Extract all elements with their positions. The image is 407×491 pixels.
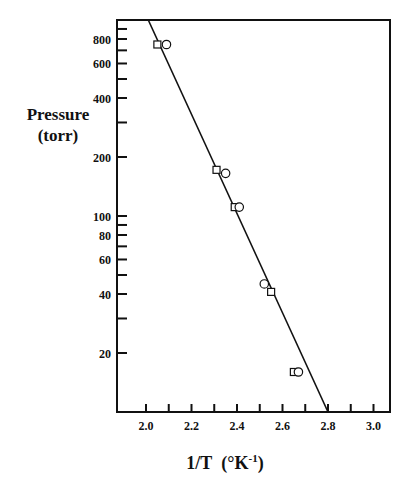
y-tick-label: 600 [93,57,111,71]
y-axis-label-line2: (torr) [8,125,108,146]
x-tick-label: 2.0 [139,419,154,433]
y-tick-label: 20 [99,347,111,361]
chart-canvas: 20406080100200400600800 2.02.22.42.62.83… [0,0,407,491]
x-tick-label: 2.6 [275,419,290,433]
x-tick-label: 2.4 [230,419,245,433]
y-tick-label: 80 [99,229,111,243]
y-axis-label: Pressure (torr) [8,104,108,146]
circle-marker [294,368,302,376]
circle-marker [221,169,229,177]
square-marker [213,166,220,173]
x-axis-label: 1/T (°K-1) [150,452,300,474]
fit-line [148,20,328,412]
y-tick-label: 100 [93,210,111,224]
y-tick-label: 200 [93,151,111,165]
data-series [148,20,328,412]
circle-marker [235,203,243,211]
circle-marker [162,40,170,48]
circle-marker [260,280,268,288]
x-tick-label: 2.8 [321,419,336,433]
x-axis-ticks: 2.02.22.42.62.83.0 [139,404,382,433]
square-marker [154,41,161,48]
x-axis-label-main: 1/T [186,453,212,473]
square-marker [268,288,275,295]
y-axis-ticks: 20406080100200400600800 [93,29,127,361]
x-axis-label-unit: (°K-1) [221,453,263,473]
y-axis-label-line1: Pressure [8,104,108,125]
y-tick-label: 800 [93,33,111,47]
y-tick-label: 40 [99,288,111,302]
plot-frame [117,20,390,412]
x-tick-label: 2.2 [184,419,199,433]
y-tick-label: 60 [99,253,111,267]
x-tick-label: 3.0 [366,419,381,433]
